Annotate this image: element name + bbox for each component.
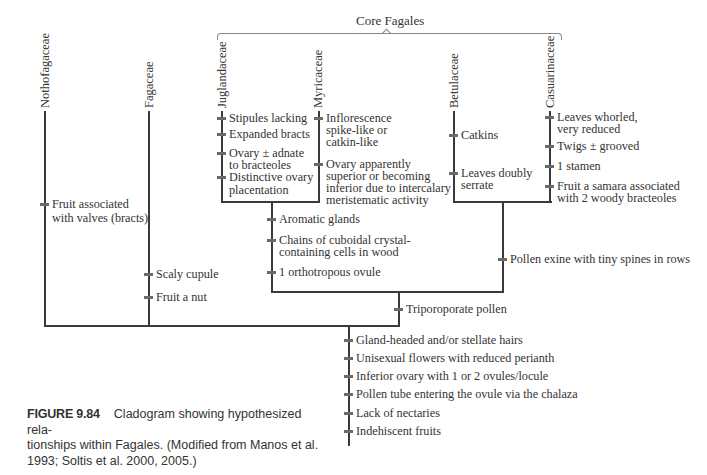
character-label: 1 stamen [557,159,601,174]
branch-betulaceae [453,111,455,203]
root-stem [348,325,350,446]
core-fagales-label: Core Fagales [356,13,424,28]
character-tick [344,375,353,378]
character-label: with valves (bracts) [52,211,148,226]
character-tick [217,133,226,136]
taxon-nothofagaceae: Nothofagaceae [38,33,53,108]
caption-line-3: 1993; Soltis et al. 2000, 2005.) [27,454,327,470]
character-label: Lack of nectaries [356,406,440,421]
caption-line-2: tionships within Fagales. (Modified from… [27,438,327,454]
character-tick [267,271,276,274]
character-label: containing cells in wood [279,245,398,260]
branch-casuarinaceae [549,111,551,203]
character-tick [498,258,507,261]
character-label: Indehiscent fruits [356,424,441,439]
character-tick [394,308,403,311]
character-label: Fruit associated [52,197,129,212]
figure-caption: FIGURE 9.84Cladogram showing hypothesize… [27,407,327,469]
taxon-casuarinaceae: Casuarinaceae [543,36,558,108]
character-tick [144,296,153,299]
character-label: 1 orthotropous ovule [279,265,381,280]
character-tick [144,273,153,276]
character-label: Twigs ± grooved [557,139,639,154]
character-tick [314,163,323,166]
character-label: Aromatic glands [279,212,360,227]
taxon-betulaceae: Betulaceae [447,53,462,108]
character-label: serrate [461,178,493,193]
character-tick [267,218,276,221]
character-tick [344,430,353,433]
character-tick [344,357,353,360]
branch-nothofagaceae [44,111,46,327]
character-tick [344,339,353,342]
bet-cas-horizontal [453,201,552,203]
character-tick [217,117,226,120]
branch-bet-cas [502,201,504,293]
character-tick [449,172,458,175]
character-label: Gland-headed and/or stellate hairs [356,333,523,348]
character-label: placentation [229,183,289,198]
character-label: Scaly cupule [156,267,219,282]
caption-line-1: FIGURE 9.84Cladogram showing hypothesize… [27,407,327,438]
figure-number: FIGURE 9.84 [27,407,100,421]
character-label: Unisexual flowers with reduced perianth [356,351,554,366]
character-tick [217,176,226,179]
branch-fagaceae [148,111,150,327]
character-tick [545,165,554,168]
character-label: Expanded bracts [229,127,310,142]
core-fagales-horizontal [271,291,504,293]
branch-juglandaceae [221,111,223,203]
character-label: Inferior ovary with 1 or 2 ovules/locule [356,369,548,384]
branch-jug-myr [271,201,273,293]
character-tick [344,393,353,396]
root-horizontal [44,325,400,327]
character-label: very reduced [557,122,620,137]
character-label: Stipules lacking [229,111,307,126]
character-tick [40,203,49,206]
taxon-fagaceae: Fagaceae [142,62,157,109]
character-tick [545,116,554,119]
character-tick [545,145,554,148]
character-tick [217,152,226,155]
character-label: with 2 woody bracteoles [557,191,676,206]
character-label: catkin-like [326,135,378,150]
character-tick [267,239,276,242]
taxon-juglandaceae: Juglandaceae [215,41,230,108]
character-tick [545,185,554,188]
jug-myr-horizontal [221,201,320,203]
character-tick [344,412,353,415]
character-label: Fruit a nut [156,290,207,305]
character-label: Triporoporate pollen [406,302,507,317]
taxon-myricaceae: Myricaceae [311,50,326,108]
character-label: Pollen exine with tiny spines in rows [510,252,690,267]
branch-myricaceae [318,111,320,203]
character-label: Pollen tube entering the ovule via the c… [356,387,578,402]
character-label: meristematic activity [326,193,429,208]
character-tick [449,134,458,137]
character-label: Catkins [461,128,498,143]
character-tick [314,117,323,120]
